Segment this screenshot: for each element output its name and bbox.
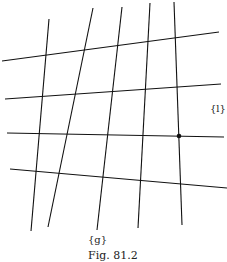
label-l: {l} <box>210 103 226 114</box>
vertical-line-family-g <box>31 2 182 231</box>
line-g-5 <box>174 2 182 225</box>
line-g-2 <box>48 8 93 227</box>
line-l-4 <box>10 169 227 188</box>
label-g: {g} <box>88 234 107 245</box>
figure-caption: Fig. 81.2 <box>88 249 138 262</box>
line-g-3 <box>97 7 122 230</box>
horizontal-line-family-l <box>2 32 227 188</box>
line-g-1 <box>31 19 49 231</box>
line-g-4 <box>138 3 150 228</box>
line-l-1 <box>2 32 219 61</box>
marked-intersection-point <box>177 134 182 139</box>
